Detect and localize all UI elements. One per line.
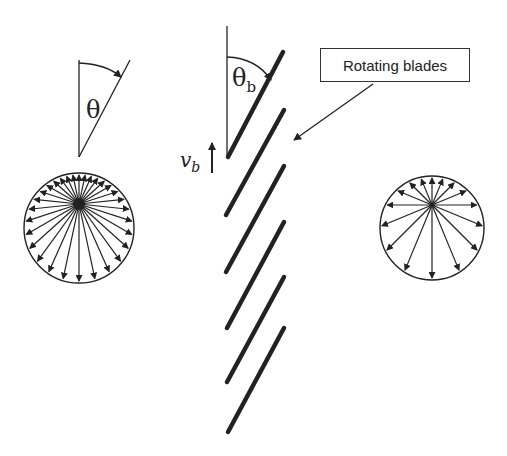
callout-text: Rotating blades — [343, 57, 447, 74]
velocity-symbol: v — [180, 148, 191, 172]
blade-angle-label: θb — [232, 64, 256, 96]
blade-angle-subscript: b — [246, 78, 256, 96]
distribution-arrow-icon — [432, 205, 477, 250]
left-angle-label: θ — [86, 96, 100, 124]
distribution-arrow-icon — [79, 204, 128, 248]
angle-arc-icon — [79, 63, 121, 77]
rotating-blades-callout: Rotating blades — [320, 48, 470, 82]
distribution-arrow-icon — [79, 204, 109, 272]
velocity-label: vb — [180, 148, 200, 175]
blade-angle-symbol: θ — [232, 64, 246, 92]
blade — [227, 277, 284, 382]
distribution-arrow-icon — [410, 183, 432, 205]
blade — [226, 110, 284, 215]
blade — [228, 328, 284, 432]
velocity-subscript: b — [191, 159, 200, 175]
distribution-arrow-icon — [30, 204, 79, 248]
right-filtered-distribution — [380, 176, 484, 280]
distribution-arrow-icon — [432, 183, 454, 205]
rotating-blades — [226, 52, 284, 432]
blade — [226, 166, 284, 272]
left-isotropic-distribution — [24, 173, 134, 283]
distribution-arrow-icon — [49, 204, 79, 272]
blade — [227, 222, 284, 328]
callout-arrow-icon — [294, 84, 373, 140]
distribution-arrow-icon — [387, 205, 432, 250]
